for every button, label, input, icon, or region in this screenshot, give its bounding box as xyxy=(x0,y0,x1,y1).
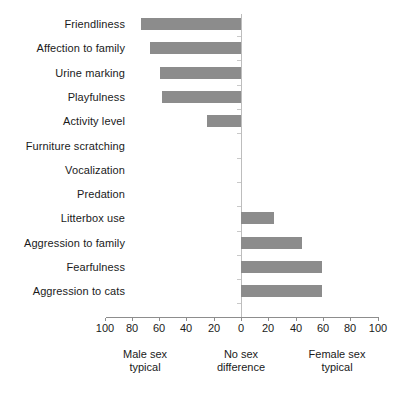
category-label: Predation xyxy=(0,188,125,200)
category-label: Aggression to family xyxy=(0,237,125,249)
bar xyxy=(241,285,322,297)
axis-inner-tick xyxy=(237,182,241,183)
x-axis-line xyxy=(106,317,379,318)
axis-inner-tick xyxy=(237,255,241,256)
axis-inner-tick xyxy=(237,206,241,207)
annotation-line-1: Female sex xyxy=(277,348,397,361)
bar xyxy=(241,261,322,273)
axis-tick xyxy=(214,318,215,321)
axis-tick xyxy=(105,318,106,321)
category-label: Playfulness xyxy=(0,91,125,103)
axis-tick xyxy=(350,318,351,321)
bar xyxy=(241,237,302,249)
category-label: Litterbox use xyxy=(0,212,125,224)
category-label: Affection to family xyxy=(0,42,125,54)
axis-tick xyxy=(296,318,297,321)
axis-inner-tick xyxy=(237,231,241,232)
axis-inner-tick xyxy=(237,60,241,61)
axis-tick xyxy=(241,318,242,321)
category-label: Aggression to cats xyxy=(0,285,125,297)
axis-tick xyxy=(159,318,160,321)
category-label: Activity level xyxy=(0,115,125,127)
axis-inner-tick xyxy=(237,133,241,134)
sex-difference-bar-chart: FriendlinessAffection to familyUrine mar… xyxy=(0,0,408,394)
axis-tick xyxy=(268,318,269,321)
axis-tick xyxy=(323,318,324,321)
female-sex-typical-annotation: Female sextypical xyxy=(277,348,397,374)
bar xyxy=(162,91,241,103)
axis-inner-tick xyxy=(237,158,241,159)
bar xyxy=(241,212,274,224)
bar xyxy=(160,67,241,79)
bar xyxy=(207,115,241,127)
bar xyxy=(150,42,241,54)
axis-inner-tick xyxy=(237,36,241,37)
axis-inner-tick xyxy=(237,109,241,110)
category-label: Furniture scratching xyxy=(0,140,125,152)
category-label: Fearfulness xyxy=(0,261,125,273)
category-label: Friendliness xyxy=(0,18,125,30)
category-label: Vocalization xyxy=(0,164,125,176)
category-label: Urine marking xyxy=(0,67,125,79)
axis-tick xyxy=(186,318,187,321)
annotation-line-2: typical xyxy=(277,361,397,374)
axis-tick xyxy=(132,318,133,321)
axis-tick-label: 100 xyxy=(358,322,398,335)
axis-inner-tick xyxy=(237,279,241,280)
axis-tick xyxy=(378,318,379,321)
plot-area: FriendlinessAffection to familyUrine mar… xyxy=(0,0,408,320)
bar xyxy=(141,18,241,30)
axis-inner-tick xyxy=(237,303,241,304)
axis-inner-tick xyxy=(237,85,241,86)
